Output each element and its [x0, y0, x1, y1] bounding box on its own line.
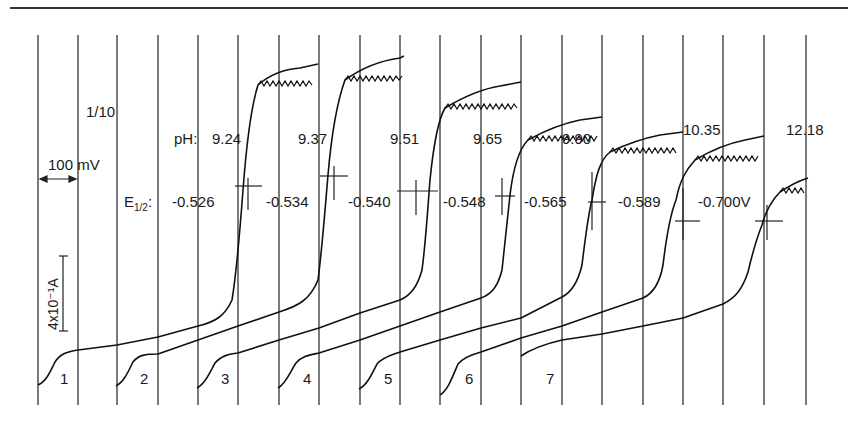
e-half-value-5: -0.565	[524, 193, 567, 210]
ph-value-3: 9.51	[390, 130, 419, 147]
e-half-value-6: -0.589	[618, 193, 661, 210]
ph-value-2: 9.37	[298, 130, 327, 147]
sensitivity-label: 1/10	[86, 103, 115, 120]
e-half-value-7: -0.700V	[698, 193, 751, 210]
curve-label-3: 3	[221, 370, 229, 387]
ph-value-6: 10.35	[683, 121, 721, 138]
polarogram-figure: 1/10 100 mV 4x10⁻¹A pH: 9.24 9.37 9.51 9…	[0, 0, 848, 426]
curve-1	[38, 64, 318, 385]
curve-label-7: 7	[546, 370, 554, 387]
curve-label-5: 5	[384, 370, 392, 387]
e-half-value-4: -0.548	[443, 193, 486, 210]
ph-value-1: 9.24	[212, 130, 241, 147]
curve-3	[197, 82, 521, 388]
ph-value-7: 12.18	[786, 121, 824, 138]
voltage-scale-arrow	[40, 176, 76, 182]
e-half-value-1: -0.526	[172, 193, 215, 210]
e-half-value-2: -0.534	[266, 193, 309, 210]
curve-label-2: 2	[140, 370, 148, 387]
ph-prefix: pH:	[174, 130, 197, 147]
voltage-scale-label: 100 mV	[48, 156, 100, 173]
ph-value-4: 9.65	[473, 130, 502, 147]
polarogram-curves	[38, 56, 808, 395]
e-half-prefix: E1/2:	[124, 193, 152, 213]
curve-label-4: 4	[303, 370, 311, 387]
current-scale-label: 4x10⁻¹A	[45, 278, 61, 330]
e-half-value-3: -0.540	[348, 193, 391, 210]
curve-label-6: 6	[465, 370, 473, 387]
grid-lines	[38, 35, 806, 405]
curve-label-1: 1	[60, 370, 68, 387]
